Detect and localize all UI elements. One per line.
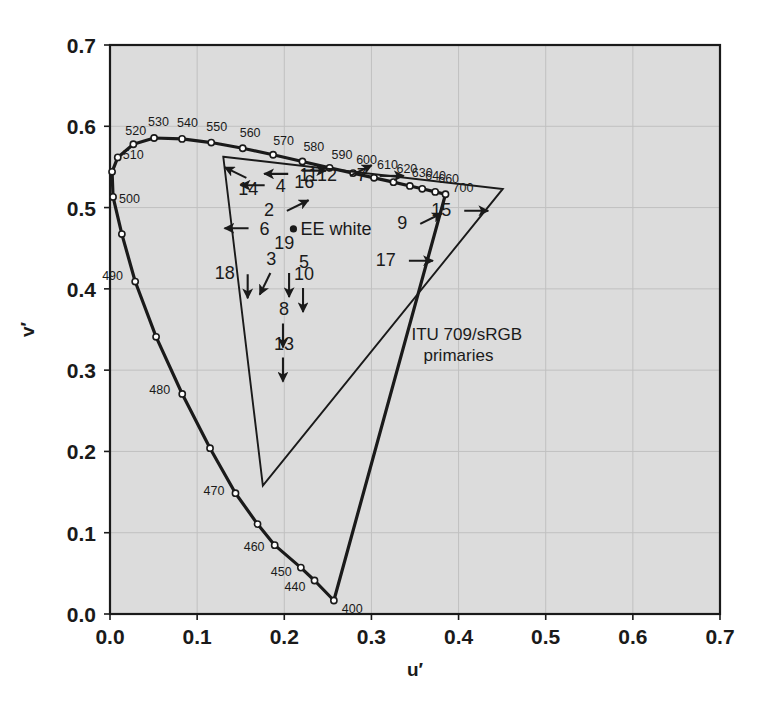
wavelength-label: 610 bbox=[377, 158, 398, 172]
x-tick-label: 0.7 bbox=[705, 625, 734, 648]
spectral-locus-marker bbox=[442, 191, 448, 197]
x-tick-label: 0.2 bbox=[270, 625, 299, 648]
y-tick-label: 0.7 bbox=[67, 34, 96, 57]
y-axis-title: v′ bbox=[17, 321, 38, 337]
annotation-label: 4 bbox=[276, 176, 286, 196]
annotation-label: 2 bbox=[264, 200, 274, 220]
wavelength-label: 460 bbox=[244, 540, 265, 554]
y-tick-label: 0.6 bbox=[67, 115, 96, 138]
spectral-locus-marker bbox=[240, 145, 246, 151]
annotation-label: 13 bbox=[274, 334, 294, 354]
annotation-label: 10 bbox=[294, 264, 314, 284]
annotation-19: 19 bbox=[274, 233, 294, 253]
wavelength-label: 530 bbox=[148, 115, 169, 129]
wavelength-label: 440 bbox=[285, 580, 306, 594]
annotation-label: 6 bbox=[260, 219, 270, 239]
annotation-label: 16 bbox=[294, 172, 314, 192]
chromaticity-diagram-figure: 4004404504604704804905005105205305405505… bbox=[0, 0, 763, 708]
spectral-locus-marker bbox=[371, 175, 377, 181]
spectral-locus-marker bbox=[298, 564, 304, 570]
spectral-locus-marker bbox=[254, 521, 260, 527]
spectral-locus-marker bbox=[207, 445, 213, 451]
x-axis-title: u′ bbox=[407, 659, 424, 680]
x-tick-label: 0.5 bbox=[531, 625, 561, 648]
spectral-locus-marker bbox=[179, 136, 185, 142]
annotation-label: 12 bbox=[317, 165, 337, 185]
y-tick-label: 0.1 bbox=[67, 522, 97, 545]
ee-white-label: EE white bbox=[300, 219, 371, 239]
spectral-locus-marker bbox=[299, 158, 305, 164]
spectral-locus-marker bbox=[311, 577, 317, 583]
wavelength-label: 490 bbox=[102, 269, 123, 283]
y-tick-label: 0.0 bbox=[67, 603, 96, 626]
wavelength-label: 500 bbox=[119, 192, 140, 206]
x-tick-label: 0.0 bbox=[95, 625, 124, 648]
spectral-locus-marker bbox=[115, 154, 121, 160]
spectral-locus-marker bbox=[153, 334, 159, 340]
annotation-label: 18 bbox=[215, 263, 235, 283]
y-tick-label: 0.5 bbox=[67, 197, 97, 220]
wavelength-label: 470 bbox=[203, 484, 224, 498]
wavelength-label: 550 bbox=[206, 120, 227, 134]
spectral-locus-marker bbox=[331, 597, 337, 603]
wavelength-label: 480 bbox=[149, 383, 170, 397]
spectral-locus-marker bbox=[109, 169, 115, 175]
spectral-locus-marker bbox=[151, 135, 157, 141]
spectral-locus-marker bbox=[432, 189, 438, 195]
spectral-locus-marker bbox=[110, 194, 116, 200]
spectral-locus-marker bbox=[130, 141, 136, 147]
spectral-locus-marker bbox=[272, 542, 278, 548]
spectral-locus-marker bbox=[208, 139, 214, 145]
cie-uv-chart: 4004404504604704804905005105205305405505… bbox=[0, 0, 763, 708]
wavelength-label: 580 bbox=[303, 140, 324, 154]
y-tick-label: 0.2 bbox=[67, 440, 96, 463]
y-tick-label: 0.3 bbox=[67, 359, 96, 382]
spectral-locus-marker bbox=[119, 231, 125, 237]
wavelength-label: 510 bbox=[123, 148, 144, 162]
wavelength-label: 540 bbox=[177, 116, 198, 130]
x-tick-label: 0.4 bbox=[444, 625, 474, 648]
gamut-label-line-2: primaries bbox=[424, 346, 494, 365]
wavelength-label: 570 bbox=[273, 134, 294, 148]
spectral-locus-marker bbox=[270, 152, 276, 158]
gamut-label-line-1: ITU 709/sRGB bbox=[412, 325, 523, 344]
wavelength-label: 590 bbox=[332, 148, 353, 162]
spectral-locus-marker bbox=[232, 490, 238, 496]
spectral-locus-marker bbox=[179, 391, 185, 397]
annotation-label: 17 bbox=[376, 250, 396, 270]
y-tick-label: 0.4 bbox=[67, 278, 97, 301]
spectral-locus-marker bbox=[419, 186, 425, 192]
annotation-label: 8 bbox=[279, 299, 289, 319]
x-tick-label: 0.3 bbox=[357, 625, 386, 648]
spectral-locus-marker bbox=[407, 183, 413, 189]
wavelength-label: 450 bbox=[271, 565, 292, 579]
annotation-label: 19 bbox=[274, 233, 294, 253]
wavelength-label: 560 bbox=[240, 126, 261, 140]
annotation-label: 15 bbox=[431, 200, 451, 220]
x-tick-label: 0.6 bbox=[618, 625, 647, 648]
annotation-label: 9 bbox=[397, 213, 407, 233]
wavelength-label: 520 bbox=[125, 124, 146, 138]
wavelength-label: 400 bbox=[342, 602, 363, 616]
ee-white-marker bbox=[290, 225, 297, 232]
spectral-locus-marker bbox=[132, 278, 138, 284]
annotation-label: 14 bbox=[238, 179, 258, 199]
x-tick-label: 0.1 bbox=[183, 625, 213, 648]
spectral-locus-marker bbox=[390, 179, 396, 185]
